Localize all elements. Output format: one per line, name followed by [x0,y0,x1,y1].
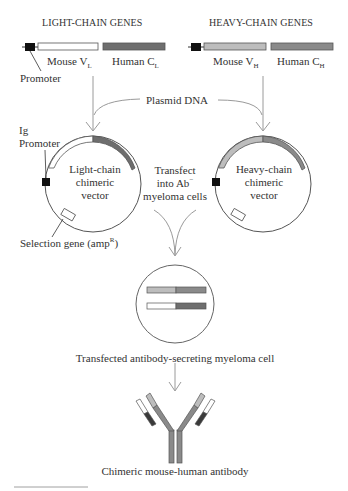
human-cl-segment [103,43,165,50]
human-cl-label: Human CL [112,55,159,68]
transfect-label: Transfect into Ab− myeloma cells [140,164,210,203]
light-chain-gene-dark [176,303,206,309]
light-chain-gene-white [147,303,176,309]
myeloma-cell [136,265,214,343]
promoter-icon [212,178,220,186]
mouse-vh-label: Mouse VH [213,55,259,68]
antibody-icon [136,393,215,463]
human-ch-segment [271,43,333,50]
plasmid-dna-label: Plasmid DNA [146,94,208,107]
heavy-chain-gene-light [147,287,176,293]
mouse-vl-segment [38,43,98,50]
human-ch-label: Human CH [277,55,325,68]
ig-promoter-label-1: Ig [19,124,28,137]
promoter-icon [191,43,201,51]
myeloma-cell-label: Transfected antibody-secreting myeloma c… [60,352,290,365]
antibody-arrow [169,363,181,391]
selection-gene-icon [231,208,246,221]
light-chain-header: LIGHT-CHAIN GENES [42,16,143,29]
selection-gene-label: Selection gene (ampR) [20,237,118,250]
heavy-chain-gene [188,43,333,51]
mouse-vl-label: Mouse VL [47,55,92,68]
mouse-vh-segment [204,43,266,50]
heavy-vector-label: Heavy-chain chimeric vector [232,163,296,202]
heavy-chain-gene-dark [176,287,206,293]
ig-promoter-label-2: Promoter [19,137,60,150]
promoter-icon [25,43,35,51]
transfect-arrows [154,210,196,256]
antibody-label: Chimeric mouse-human antibody [70,465,280,478]
heavy-chain-header: HEAVY-CHAIN GENES [209,16,313,29]
ig-promoter-icon [42,178,50,186]
light-vector-label: Light-chain chimeric vector [63,163,127,202]
promoter-label: Promoter [20,72,61,85]
